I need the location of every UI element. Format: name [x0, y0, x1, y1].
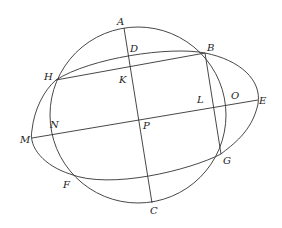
geometry-diagram: A D B H K L O E N P M G F C [0, 0, 282, 228]
label-M: M [19, 134, 31, 145]
label-D: D [129, 43, 138, 54]
label-G: G [223, 155, 231, 166]
label-K: K [118, 74, 127, 85]
label-A: A [116, 16, 124, 27]
label-P: P [142, 120, 150, 131]
label-B: B [206, 42, 214, 53]
label-O: O [231, 90, 239, 101]
label-C: C [150, 205, 158, 216]
label-F: F [62, 179, 71, 190]
label-H: H [43, 71, 53, 82]
label-E: E [258, 95, 267, 106]
label-N: N [49, 119, 60, 130]
label-L: L [196, 94, 204, 105]
